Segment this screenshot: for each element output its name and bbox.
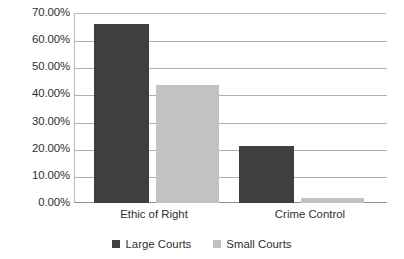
bar-small-courts-ethic-of-right — [156, 85, 219, 203]
legend-entry-large-courts: Large Courts — [112, 238, 191, 250]
y-axis: 70.00% 60.00% 50.00% 40.00% 30.00% 20.00… — [0, 0, 70, 259]
bars-layer — [75, 14, 386, 203]
y-tick-label-0: 0.00% — [0, 197, 70, 208]
legend-label-small-courts: Small Courts — [226, 238, 291, 250]
chart-legend: Large Courts Small Courts — [0, 238, 404, 250]
legend-label-large-courts: Large Courts — [125, 238, 191, 250]
x-category-label-0: Ethic of Right — [76, 208, 232, 221]
legend-swatch-icon-small-courts — [213, 240, 221, 248]
y-tick-label-70: 70.00% — [0, 7, 70, 18]
x-category-label-1: Crime Control — [232, 208, 388, 221]
bar-large-courts-crime-control — [239, 146, 294, 203]
y-tick-label-40: 40.00% — [0, 88, 70, 99]
y-tick-label-20: 20.00% — [0, 143, 70, 154]
y-tick-label-60: 60.00% — [0, 34, 70, 45]
y-tick-label-30: 30.00% — [0, 116, 70, 127]
y-tick-label-50: 50.00% — [0, 61, 70, 72]
legend-swatch-icon-large-courts — [112, 240, 120, 248]
bar-large-courts-ethic-of-right — [94, 24, 149, 203]
x-axis: Ethic of Right Crime Control — [74, 208, 386, 228]
y-tick-label-10: 10.00% — [0, 170, 70, 181]
bar-small-courts-crime-control — [301, 198, 364, 203]
plot-area — [74, 13, 386, 203]
bar-chart: 70.00% 60.00% 50.00% 40.00% 30.00% 20.00… — [0, 0, 404, 259]
legend-entry-small-courts: Small Courts — [213, 238, 291, 250]
